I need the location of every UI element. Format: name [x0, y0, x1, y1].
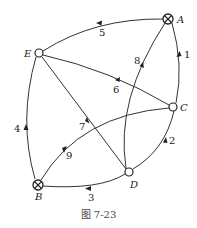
figure-caption: 图 7-23 [0, 206, 197, 221]
node-label-a: A [176, 14, 184, 25]
node-a: A [163, 14, 184, 25]
circle-icon [169, 103, 177, 111]
node-e: E [23, 48, 43, 59]
node-label-e: E [23, 48, 32, 59]
edge-5: 5 [43, 19, 163, 51]
edge-label-3: 3 [88, 192, 94, 203]
edge-9: 9 [41, 108, 169, 180]
node-label-b: B [34, 191, 42, 202]
arrow-icon [96, 21, 102, 26]
circle-icon [35, 49, 43, 57]
arrow-icon [177, 51, 182, 57]
node-label-c: C [180, 102, 188, 113]
edge-label-7: 7 [79, 121, 85, 132]
node-d: D [125, 168, 138, 190]
edge-label-6: 6 [113, 84, 119, 95]
node-b: B [33, 180, 43, 202]
edge-label-4: 4 [14, 123, 20, 134]
edge-4: 4 [14, 57, 36, 179]
node-label-d: D [129, 179, 138, 190]
edge-1: 1 [172, 23, 190, 103]
edge-7: 7 [42, 57, 126, 169]
edge-label-5: 5 [99, 27, 105, 38]
directed-graph: 5 1 6 8 9 7 4 2 [0, 0, 197, 228]
edge-label-8: 8 [134, 55, 140, 66]
arrow-icon [85, 186, 91, 191]
edge-3: 3 [42, 174, 125, 203]
node-c: C [169, 102, 188, 113]
edge-label-1: 1 [184, 49, 190, 60]
edge-label-9: 9 [66, 150, 72, 161]
edge-2: 2 [133, 111, 175, 169]
edge-label-2: 2 [169, 135, 175, 146]
arrow-icon [24, 124, 29, 130]
circle-icon [125, 168, 133, 176]
edge-6: 6 [43, 55, 169, 105]
